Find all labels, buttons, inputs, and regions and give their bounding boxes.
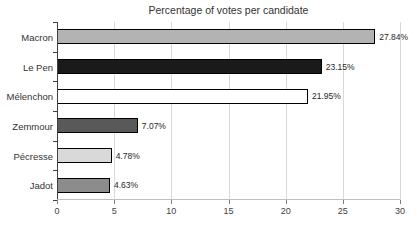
value-axis-tick (114, 200, 115, 204)
value-axis-tick (286, 200, 287, 204)
bar-row: 7.07% (57, 118, 400, 133)
category-label: Mélenchon (7, 91, 53, 102)
gridline (400, 22, 401, 200)
bar-value-label: 21.95% (312, 91, 341, 101)
x-tick-label: 20 (281, 206, 291, 216)
category-axis-tick (53, 22, 57, 23)
x-tick-label: 15 (223, 206, 233, 216)
category-axis-line (57, 22, 58, 200)
plot-area: 27.84%23.15%21.95%7.07%4.78%4.63% (57, 22, 400, 200)
bar-row: 27.84% (57, 29, 400, 44)
category-label: Zemmour (12, 120, 53, 131)
x-tick-label: 25 (338, 206, 348, 216)
category-label: Jadot (30, 180, 53, 191)
x-tick-label: 10 (166, 206, 176, 216)
category-axis-tick (53, 141, 57, 142)
bar-value-label: 4.78% (116, 151, 140, 161)
bar-pecresse (57, 148, 112, 163)
bar-row: 21.95% (57, 89, 400, 104)
gridline (343, 22, 344, 200)
category-label: Macron (21, 31, 53, 42)
value-axis-tick (57, 200, 58, 204)
gridline (286, 22, 287, 200)
bar-row: 4.63% (57, 178, 400, 193)
value-axis-tick (229, 200, 230, 204)
bar-jadot (57, 178, 110, 193)
category-axis-tick (53, 111, 57, 112)
category-axis-tick (53, 81, 57, 82)
category-label: Pécresse (13, 150, 53, 161)
bar-le-pen (57, 59, 322, 74)
value-axis-tick (343, 200, 344, 204)
bar-value-label: 4.63% (114, 180, 138, 190)
bar-row: 23.15% (57, 59, 400, 74)
bar-row: 4.78% (57, 148, 400, 163)
bar-melenchon (57, 89, 308, 104)
gridline (171, 22, 172, 200)
category-label: Le Pen (23, 61, 53, 72)
gridline (229, 22, 230, 200)
category-axis-tick (53, 200, 57, 201)
chart-title: Percentage of votes per candidate (57, 4, 400, 16)
bar-zemmour (57, 118, 138, 133)
x-tick-label: 5 (112, 206, 117, 216)
value-axis-tick (400, 200, 401, 204)
bar-value-label: 23.15% (326, 62, 355, 72)
bar-value-label: 7.07% (142, 121, 166, 131)
category-axis-tick (53, 170, 57, 171)
value-axis-tick (171, 200, 172, 204)
votes-bar-chart: Percentage of votes per candidate 27.84%… (0, 0, 417, 229)
bar-macron (57, 29, 375, 44)
x-tick-label: 0 (54, 206, 59, 216)
gridline (114, 22, 115, 200)
bar-value-label: 27.84% (379, 32, 408, 42)
x-tick-label: 30 (395, 206, 405, 216)
category-axis-tick (53, 52, 57, 53)
